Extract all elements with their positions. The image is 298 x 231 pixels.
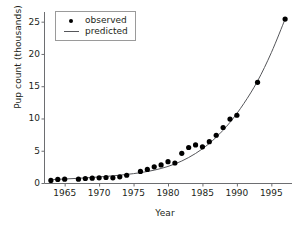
predicted-curve [51, 19, 285, 180]
legend-item-predicted: predicted [61, 26, 128, 37]
y-tick-label: 20 [18, 50, 40, 59]
x-tick-label: 1975 [117, 189, 151, 198]
observed-point [138, 169, 143, 174]
observed-point [117, 174, 122, 179]
x-axis-title: Year [40, 208, 290, 218]
observed-point [76, 177, 81, 182]
x-tick-label: 1995 [254, 189, 288, 198]
observed-point [110, 175, 115, 180]
y-tick-label: 15 [18, 82, 40, 91]
x-tick-label: 1980 [151, 189, 185, 198]
observed-point [55, 177, 60, 182]
observed-point [193, 142, 198, 147]
observed-point [234, 113, 239, 118]
x-tick-label: 1970 [82, 189, 116, 198]
observed-marker-icon [61, 19, 81, 23]
x-tick-label: 1990 [220, 189, 254, 198]
y-tick-label: 0 [18, 179, 40, 188]
observed-point [227, 117, 232, 122]
observed-point [214, 133, 219, 138]
chart-figure: Pup count (thousands) 0510152025 1965197… [0, 0, 298, 231]
y-axis-tick-labels: 0510152025 [16, 12, 40, 183]
observed-point [48, 178, 53, 183]
observed-point [283, 17, 288, 22]
y-tick-label: 25 [18, 18, 40, 27]
observed-point [90, 176, 95, 181]
observed-point [83, 176, 88, 181]
observed-point [255, 80, 260, 85]
observed-point [97, 175, 102, 180]
observed-point [152, 164, 157, 169]
chart-legend: observed predicted [55, 11, 136, 41]
observed-point [159, 162, 164, 167]
observed-point [145, 167, 150, 172]
legend-label-predicted: predicted [81, 26, 128, 37]
observed-point [62, 177, 67, 182]
observed-point [200, 144, 205, 149]
axis-tick-marks [42, 22, 272, 186]
legend-item-observed: observed [61, 15, 128, 26]
x-tick-label: 1985 [185, 189, 219, 198]
observed-point [165, 159, 170, 164]
x-axis-tick-labels: 1965197019751980198519901995 [44, 189, 292, 201]
predicted-line-icon [61, 31, 81, 32]
y-tick-label: 10 [18, 114, 40, 123]
observed-point [172, 160, 177, 165]
x-tick-label: 1965 [48, 189, 82, 198]
observed-point [186, 145, 191, 150]
observed-point [207, 139, 212, 144]
y-tick-label: 5 [18, 147, 40, 156]
observed-point [221, 125, 226, 130]
legend-label-observed: observed [81, 15, 127, 26]
observed-points-group [48, 17, 287, 184]
observed-point [103, 175, 108, 180]
observed-point [124, 173, 129, 178]
observed-point [179, 151, 184, 156]
